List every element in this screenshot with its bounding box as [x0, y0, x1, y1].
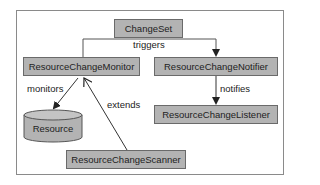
node-resource-change-monitor[interactable]: ResourceChangeMonitor [23, 57, 140, 76]
node-resource-label[interactable]: Resource [24, 123, 82, 134]
edge-label-extends: extends [107, 99, 140, 110]
node-resource-change-scanner[interactable]: ResourceChangeScanner [66, 150, 186, 169]
extends-connector [84, 78, 127, 150]
node-resource-change-notifier[interactable]: ResourceChangeNotifier [154, 57, 278, 76]
node-changeset[interactable]: ChangeSet [114, 19, 183, 38]
edge-label-triggers: triggers [133, 39, 165, 50]
node-resource-change-listener[interactable]: ResourceChangeListener [154, 105, 278, 124]
edge-label-notifies: notifies [220, 83, 250, 94]
edge-label-monitors: monitors [27, 83, 63, 94]
